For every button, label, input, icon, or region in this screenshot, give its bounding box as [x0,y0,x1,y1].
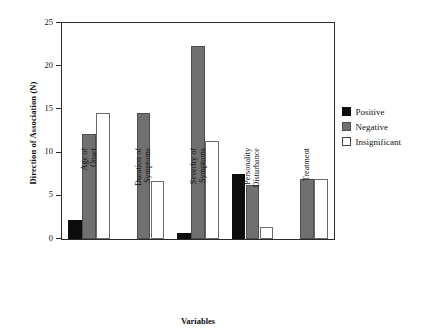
x-label-2: Severity ofSymptoms [189,148,208,244]
chart-legend: Positive Negative Insignificant [342,104,401,149]
legend-item-positive: Positive [342,104,401,119]
legend-item-insignificant: Insignificant [342,134,401,149]
y-tick-5: 5 [56,195,62,196]
x-label-line: Symptoms [144,148,153,244]
y-tick-label-20: 20 [45,60,54,70]
bar-insignificant-1 [151,181,165,239]
legend-item-negative: Negative [342,119,401,134]
y-tick-10: 10 [56,152,62,153]
x-label-1: Duration ofSymptoms [134,148,153,244]
y-axis-title: Direction of Association (N) [28,38,38,228]
x-label-line: Duration of [134,148,143,244]
x-axis-title: Variables [61,316,335,326]
y-tick-15: 15 [56,108,62,109]
x-label-line: Onset [89,148,98,244]
x-label-line: Severity of [189,148,198,244]
y-tick-label-5: 5 [49,189,53,199]
x-label-line: Age of [80,148,89,244]
y-tick-label-15: 15 [45,103,54,113]
x-label-line: Personality [243,148,252,244]
y-tick-label-25: 25 [45,17,54,27]
y-tick-label-10: 10 [45,146,54,156]
x-label-line: Symptoms [198,148,207,244]
y-tick-20: 20 [56,65,62,66]
legend-label-negative: Negative [356,122,388,132]
legend-label-positive: Positive [356,107,385,117]
legend-swatch-positive-icon [342,107,351,116]
y-tick-0: 0 [56,238,62,239]
x-label-line: Treatment [302,148,311,244]
y-tick-25: 25 [56,22,62,23]
y-tick-label-0: 0 [49,233,53,243]
x-label-3: PersonalityDisturbance [243,148,262,244]
legend-swatch-insignificant-icon [342,137,351,146]
x-label-line: Disturbance [252,148,261,244]
x-label-4: Treatment [302,148,311,244]
bar-insignificant-4 [314,179,328,239]
legend-label-insignificant: Insignificant [356,137,402,147]
legend-swatch-negative-icon [342,122,351,131]
x-label-0: Age ofOnset [80,148,99,244]
chart-figure: Direction of Association (N) 0510152025 … [0,0,437,335]
